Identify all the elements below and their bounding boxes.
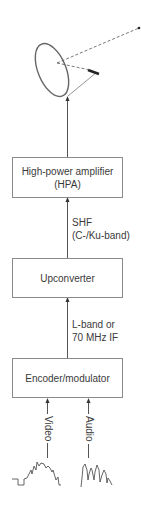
- satellite-point: [138, 27, 141, 30]
- if-label-line2: 70 MHz IF: [72, 331, 118, 344]
- beam-line-feed: [57, 63, 90, 70]
- if-link-label: L-band or 70 MHz IF: [72, 318, 118, 344]
- video-input-label: Video: [43, 414, 54, 443]
- encoder-modulator-block: Encoder/modulator: [12, 358, 123, 398]
- shf-link-label: SHF (C-/Ku-band): [72, 216, 130, 242]
- video-waveform-icon: [12, 462, 61, 485]
- arrowhead-icon: [87, 398, 91, 403]
- upconverter-block: Upconverter: [12, 258, 123, 298]
- feed-horn-icon: [88, 70, 99, 74]
- feed-support-line: [68, 72, 97, 96]
- if-label-line1: L-band or: [72, 318, 118, 331]
- shf-label-line2: (C-/Ku-band): [72, 229, 130, 242]
- shf-label-line1: SHF: [72, 216, 130, 229]
- arrowhead-icon: [46, 398, 50, 403]
- hpa-block: High-power amplifier (HPA): [12, 157, 123, 198]
- audio-input-label: Audio: [84, 414, 95, 444]
- upconverter-label: Upconverter: [40, 272, 94, 285]
- hpa-label-line1: High-power amplifier: [22, 165, 114, 178]
- hpa-label-line2: (HPA): [54, 178, 80, 191]
- arrowhead-icon: [66, 96, 70, 101]
- beam-line-outgoing: [57, 28, 139, 63]
- encoder-label: Encoder/modulator: [25, 372, 110, 385]
- audio-waveform-icon: [81, 464, 112, 487]
- satellite-dish-icon: [29, 39, 76, 101]
